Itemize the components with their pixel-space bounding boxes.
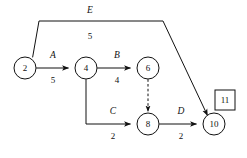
edge-A-name: A [49, 50, 56, 60]
edge-E-name: E [86, 5, 93, 15]
edge-A-duration: 5 [51, 75, 56, 85]
edge-C-duration: 2 [111, 131, 116, 141]
node-10-label: 10 [210, 119, 220, 129]
edge-C-line [86, 79, 131, 124]
edge-B-duration: 4 [115, 75, 120, 85]
edge-C-name: C [110, 106, 117, 116]
node-6-label: 6 [146, 63, 151, 73]
edge-B-name: B [114, 50, 120, 60]
edge-E-duration: 5 [88, 31, 93, 41]
node-2-label: 2 [23, 63, 28, 73]
network-diagram-canvas: 2 4 6 8 10 11 E 5 A 5 B 4 C 2 D 2 [0, 0, 247, 158]
node-4-label: 4 [84, 63, 89, 73]
node-8-label: 8 [146, 119, 151, 129]
network-diagram: 2 4 6 8 10 11 E 5 A 5 B 4 C 2 D 2 [0, 0, 247, 158]
edge-D-name: D [177, 106, 185, 116]
edge-D-duration: 2 [179, 131, 184, 141]
terminal-box-11-label: 11 [221, 95, 230, 105]
